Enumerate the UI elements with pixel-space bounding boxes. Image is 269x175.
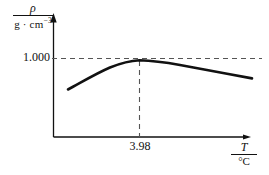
x-axis-label: T °C (231, 141, 257, 167)
x-axis-label-numerator: T (231, 141, 257, 154)
density-temperature-chart: ρ g · cm−3 1.000 3.98 T °C (0, 0, 269, 175)
y-axis-unit-text: g · cm (14, 18, 43, 30)
x-axis-label-denominator: °C (231, 156, 257, 167)
x-axis-arrowhead (243, 134, 251, 139)
y-axis (50, 13, 56, 137)
y-axis-label-numerator: ρ (13, 2, 53, 15)
x-axis (54, 134, 252, 139)
y-axis-label-denominator: g · cm−3 (13, 17, 53, 30)
y-axis-label: ρ g · cm−3 (13, 2, 53, 30)
y-axis-unit-exponent: −3 (43, 16, 51, 25)
x-tick-label-398: 3.98 (119, 140, 161, 152)
density-curve (68, 60, 252, 89)
y-tick-label-1000: 1.000 (14, 51, 50, 63)
